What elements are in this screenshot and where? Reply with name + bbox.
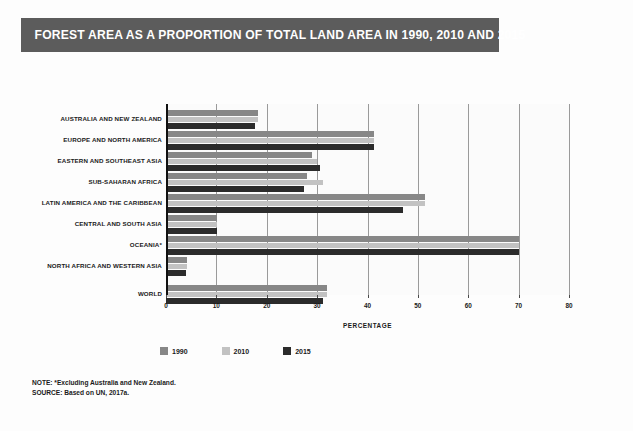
bar [166, 285, 327, 291]
tick-mark [317, 295, 318, 298]
bar [166, 159, 317, 165]
tick-mark [216, 295, 217, 298]
legend-swatch-icon [160, 347, 168, 355]
x-axis-tick-label: 30 [314, 302, 321, 309]
legend-swatch-icon [222, 347, 230, 355]
tick-mark [519, 295, 520, 298]
legend-item[interactable]: 2010 [222, 347, 250, 355]
chart-canvas: AUSTRALIA AND NEW ZEALANDEUROPE AND NORT… [0, 0, 633, 431]
footnotes: NOTE: *Excluding Australia and New Zeala… [32, 378, 176, 397]
bar [166, 110, 258, 116]
tick-mark [569, 295, 570, 298]
bar [166, 165, 320, 171]
bar [166, 222, 217, 228]
bar [166, 270, 186, 276]
bar [166, 138, 374, 144]
category-label: NORTH AFRICA AND WESTERN ASIA [47, 263, 162, 269]
category-label: EASTERN AND SOUTHEAST ASIA [57, 158, 162, 164]
plot-area: 01020304050607080 [166, 104, 569, 295]
bar [166, 117, 258, 123]
x-axis-tick-label: 20 [263, 302, 270, 309]
bar [166, 207, 403, 213]
tick-mark [267, 295, 268, 298]
legend-item[interactable]: 1990 [160, 347, 188, 355]
chart-page: FOREST AREA AS A PROPORTION OF TOTAL LAN… [0, 0, 633, 431]
category-label: LATIN AMERICA AND THE CARIBBEAN [42, 200, 162, 206]
legend-label: 2015 [295, 348, 311, 355]
category-label: SUB-SAHARAN AFRICA [88, 179, 162, 185]
footnote-line: SOURCE: Based on UN, 2017a. [32, 388, 176, 398]
bar [166, 228, 217, 234]
bar [166, 152, 312, 158]
legend-item[interactable]: 2015 [283, 347, 311, 355]
bar [166, 292, 327, 298]
legend-label: 1990 [172, 348, 188, 355]
bar [166, 144, 374, 150]
bar [166, 131, 374, 137]
category-label: AUSTRALIA AND NEW ZEALAND [60, 116, 162, 122]
bar [166, 249, 519, 255]
x-axis-tick-label: 70 [515, 302, 522, 309]
category-label: CENTRAL AND SOUTH ASIA [75, 221, 162, 227]
bar [166, 173, 307, 179]
gridline [519, 104, 520, 295]
footnote-line: NOTE: *Excluding Australia and New Zeala… [32, 378, 176, 388]
category-label: OCEANIA* [130, 242, 162, 248]
tick-mark [468, 295, 469, 298]
bar [166, 243, 519, 249]
gridline [569, 104, 570, 295]
tick-mark [166, 295, 167, 298]
bar [166, 186, 304, 192]
x-axis-tick-label: 10 [213, 302, 220, 309]
bar [166, 123, 255, 129]
x-axis-tick-label: 40 [364, 302, 371, 309]
bar [166, 264, 187, 270]
gridline [468, 104, 469, 295]
chart-legend: 199020102015 [160, 347, 345, 355]
bar [166, 194, 425, 200]
x-axis-tick-label: 80 [565, 302, 572, 309]
category-axis-labels: AUSTRALIA AND NEW ZEALANDEUROPE AND NORT… [20, 100, 162, 295]
bar [166, 298, 323, 304]
category-label: EUROPE AND NORTH AMERICA [63, 137, 162, 143]
x-axis-tick-label: 60 [465, 302, 472, 309]
tick-mark [418, 295, 419, 298]
value-axis-line [166, 104, 168, 295]
bar [166, 236, 519, 242]
legend-swatch-icon [283, 347, 291, 355]
bar [166, 257, 187, 263]
x-axis-title: PERCENTAGE [166, 322, 569, 329]
bar [166, 180, 323, 186]
x-axis-tick-label: 50 [414, 302, 421, 309]
x-axis-tick-label: 0 [164, 302, 168, 309]
category-label: WORLD [138, 291, 162, 297]
bar [166, 201, 425, 207]
legend-label: 2010 [234, 348, 250, 355]
tick-mark [368, 295, 369, 298]
bar [166, 215, 217, 221]
